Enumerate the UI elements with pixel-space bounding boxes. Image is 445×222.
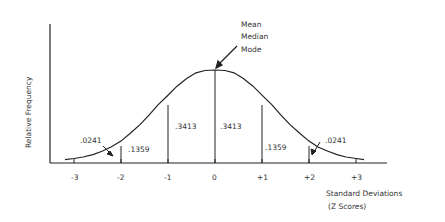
- x-axis-label-line2: (Z Scores): [328, 202, 366, 211]
- x-tick-label: -3: [71, 173, 79, 182]
- region-label: .1359: [128, 145, 150, 154]
- annotation-arrow: [216, 46, 237, 68]
- x-axis-label-line1: Standard Deviations: [326, 189, 402, 198]
- region-label: .0241: [325, 136, 347, 145]
- x-tick-label: -2: [117, 173, 125, 182]
- tail-arrow-left: [103, 146, 113, 156]
- normal-distribution-chart: -3 -2 -1 0 +1 +2 +3 .0241 .1359 .3413 .3…: [0, 0, 445, 222]
- region-label: .3413: [175, 122, 197, 131]
- annotation-mean: Mean: [241, 20, 262, 29]
- x-tick-label: +1: [257, 173, 268, 182]
- y-axis-label: Relative Frequency: [24, 76, 33, 148]
- x-tick-label: -1: [164, 173, 172, 182]
- x-tick-label: 0: [212, 173, 217, 182]
- x-tick-label: +3: [351, 173, 362, 182]
- annotation-mode: Mode: [241, 45, 262, 54]
- region-label: .1359: [265, 143, 287, 152]
- x-tick-label: +2: [304, 173, 315, 182]
- region-label: .0241: [80, 136, 102, 145]
- annotation-median: Median: [241, 32, 269, 41]
- region-label: .3413: [220, 122, 242, 131]
